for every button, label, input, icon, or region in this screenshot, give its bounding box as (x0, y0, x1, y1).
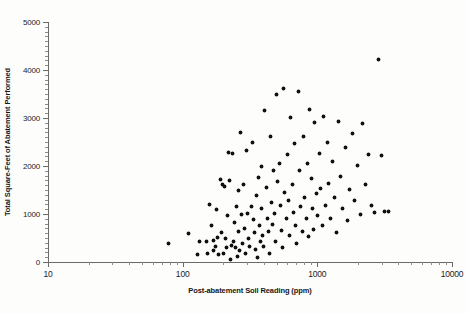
scatter-point (306, 162, 309, 165)
scatter-point (196, 253, 199, 256)
x-tick-minor (277, 262, 278, 265)
scatter-point (269, 135, 272, 138)
scatter-point (377, 58, 380, 61)
scatter-point (353, 199, 356, 202)
scatter-point (307, 235, 310, 238)
scatter-point (259, 240, 262, 243)
scatter-point (198, 240, 201, 243)
y-tick-label: 0 (36, 258, 40, 267)
scatter-point (356, 164, 359, 167)
scatter-point (337, 120, 340, 123)
scatter-point (359, 213, 362, 216)
x-tick-minor (358, 262, 359, 265)
scatter-point (260, 165, 263, 168)
scatter-point (229, 258, 232, 261)
x-tick-minor (153, 262, 154, 265)
x-tick-minor (223, 262, 224, 265)
scatter-point (305, 217, 308, 220)
scatter-point (333, 196, 336, 199)
scatter-point (235, 205, 238, 208)
scatter-point (219, 178, 222, 181)
scatter-point (216, 236, 219, 239)
scatter-point (187, 232, 190, 235)
scatter-point (311, 207, 314, 210)
x-tick-minor (296, 262, 297, 265)
scatter-point (329, 217, 332, 220)
scatter-point (212, 239, 215, 242)
x-tick-minor (398, 262, 399, 265)
scatter-point (313, 121, 316, 124)
x-tick-minor (311, 262, 312, 265)
scatter-point (344, 146, 347, 149)
scatter-point (208, 203, 211, 206)
scatter-point (262, 245, 265, 248)
x-axis-title: Post-abatement Soil Reading (ppm) (48, 286, 452, 295)
scatter-point (312, 228, 315, 231)
x-tick-minor (142, 262, 143, 265)
scatter-point (291, 183, 294, 186)
scatter-point (228, 179, 231, 182)
scatter-point (238, 249, 241, 252)
y-tick-label: 2000 (23, 162, 40, 171)
scatter-point (234, 246, 237, 249)
scatter-point (316, 214, 319, 217)
scatter-point (245, 149, 248, 152)
scatter-point (310, 177, 313, 180)
scatter-point (341, 207, 344, 210)
scatter-point (324, 204, 327, 207)
scatter-point (244, 252, 247, 255)
scatter-point (279, 204, 282, 207)
scatter-point (237, 189, 240, 192)
scatter-point (289, 116, 292, 119)
scatter-point (364, 183, 367, 186)
scatter-points-layer (48, 22, 452, 262)
y-tick-label: 3000 (23, 114, 40, 123)
scatter-point (383, 210, 386, 213)
x-tick-label: 1000 (308, 269, 326, 279)
scatter-point (252, 218, 255, 221)
scatter-point (335, 231, 338, 234)
x-tick-minor (446, 262, 447, 265)
scatter-point (303, 196, 306, 199)
scatter-point (293, 142, 296, 145)
scatter-point (242, 183, 245, 186)
x-tick-major (452, 262, 453, 267)
figure-scatter-plot: Total Square-Feet of Abatement Performed… (0, 0, 468, 314)
x-tick-minor (112, 262, 113, 265)
scatter-point (271, 223, 274, 226)
scatter-point (282, 87, 285, 90)
scatter-point (280, 229, 283, 232)
scatter-point (301, 230, 304, 233)
scatter-point (346, 219, 349, 222)
scatter-point (224, 237, 227, 240)
scatter-point (210, 224, 213, 227)
scatter-point (321, 224, 324, 227)
x-tick-minor (411, 262, 412, 265)
scatter-point (257, 176, 260, 179)
scatter-point (298, 169, 301, 172)
scatter-point (267, 230, 270, 233)
scatter-point (239, 131, 242, 134)
scatter-point (226, 214, 229, 217)
plot-area: 010002000300040005000 10100100010000 (48, 22, 452, 262)
scatter-point (261, 234, 264, 237)
scatter-point (286, 153, 289, 156)
x-tick-label: 10000 (441, 269, 464, 279)
scatter-point (255, 194, 258, 197)
scatter-point (248, 245, 251, 248)
scatter-point (232, 240, 235, 243)
scatter-point (327, 182, 330, 185)
scatter-point (275, 93, 278, 96)
scatter-point (351, 132, 354, 135)
scatter-point (240, 213, 243, 216)
x-tick-major (48, 262, 49, 267)
scatter-point (387, 210, 390, 213)
y-tick-label: 1000 (23, 210, 40, 219)
x-tick-minor (439, 262, 440, 265)
scatter-point (258, 224, 261, 227)
scatter-point (287, 199, 290, 202)
scatter-point (263, 109, 266, 112)
scatter-point (299, 205, 302, 208)
scatter-point (297, 90, 300, 93)
scatter-point (227, 151, 230, 154)
